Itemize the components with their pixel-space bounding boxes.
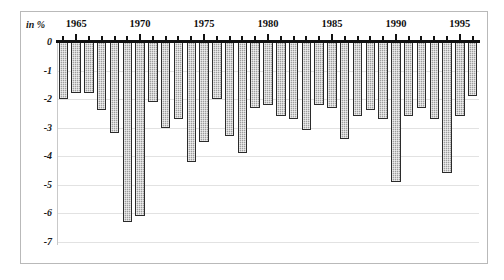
x-tick-major [331,34,333,43]
x-tick-major [139,34,141,43]
x-tick-minor [382,36,384,42]
bar [327,42,336,108]
x-tick-minor [126,36,128,42]
x-tick-minor [344,36,346,42]
x-tick-label: 1970 [120,18,160,29]
bar [135,42,144,216]
bar [110,42,119,133]
x-tick-major [459,34,461,43]
x-tick-minor [420,36,422,42]
x-tick-minor [241,36,243,42]
bar [225,42,234,136]
x-tick-label: 1975 [184,18,224,29]
x-tick-label: 1985 [312,18,352,29]
x-tick-minor [408,36,410,42]
gridline [57,242,479,243]
bar [391,42,400,182]
x-tick-minor [177,36,179,42]
bar [59,42,68,99]
y-tick-label: -1 [22,66,52,76]
bar [468,42,477,96]
bar [71,42,80,93]
x-tick-label: 1995 [440,18,480,29]
bar [199,42,208,142]
x-tick-minor [369,36,371,42]
value-axis-line [57,42,58,245]
x-tick-minor [472,36,474,42]
chart-figure: in % 0-1-2-3-4-5-6-7 1965197019751980198… [0,0,504,280]
x-tick-minor [446,36,448,42]
bar [212,42,221,99]
x-tick-minor [165,36,167,42]
x-tick-minor [101,36,103,42]
bar [97,42,106,110]
gridline [57,156,479,157]
bar [276,42,285,116]
x-tick-minor [293,36,295,42]
y-axis-labels: 0-1-2-3-4-5-6-7 [18,0,52,280]
bar [238,42,247,153]
x-tick-minor [114,36,116,42]
bar [366,42,375,110]
gridline [57,213,479,214]
bar [263,42,272,105]
bar [302,42,311,130]
y-tick-label: -7 [22,237,52,247]
bar [442,42,451,173]
bar [455,42,464,116]
x-tick-major [75,34,77,43]
gridline [57,185,479,186]
bar [84,42,93,93]
x-tick-major [267,34,269,43]
x-tick-label: 1990 [376,18,416,29]
y-tick-label: -4 [22,151,52,161]
x-tick-minor [254,36,256,42]
bar [148,42,157,102]
bar [289,42,298,119]
bar [123,42,132,222]
y-tick-label: -3 [22,123,52,133]
x-tick-label: 1965 [56,18,96,29]
bar [314,42,323,105]
bar [404,42,413,116]
x-tick-minor [152,36,154,42]
y-tick-label: -5 [22,180,52,190]
x-tick-minor [62,36,64,42]
bar [430,42,439,119]
bar [187,42,196,162]
x-tick-major [395,34,397,43]
x-tick-minor [280,36,282,42]
x-tick-major [203,34,205,43]
y-tick-label: 0 [22,37,52,47]
gridline [57,128,479,129]
x-tick-minor [318,36,320,42]
y-tick-label: -6 [22,208,52,218]
bar [161,42,170,128]
x-tick-minor [433,36,435,42]
bar [340,42,349,139]
x-tick-label: 1980 [248,18,288,29]
x-tick-minor [216,36,218,42]
x-tick-minor [305,36,307,42]
bar [174,42,183,119]
plot-area [57,42,479,242]
x-tick-minor [88,36,90,42]
x-tick-minor [357,36,359,42]
bar [417,42,426,108]
x-tick-minor [190,36,192,42]
bar [353,42,362,116]
x-tick-minor [229,36,231,42]
bar [250,42,259,108]
bar [378,42,387,119]
y-tick-label: -2 [22,94,52,104]
zero-axis-line [56,40,480,43]
